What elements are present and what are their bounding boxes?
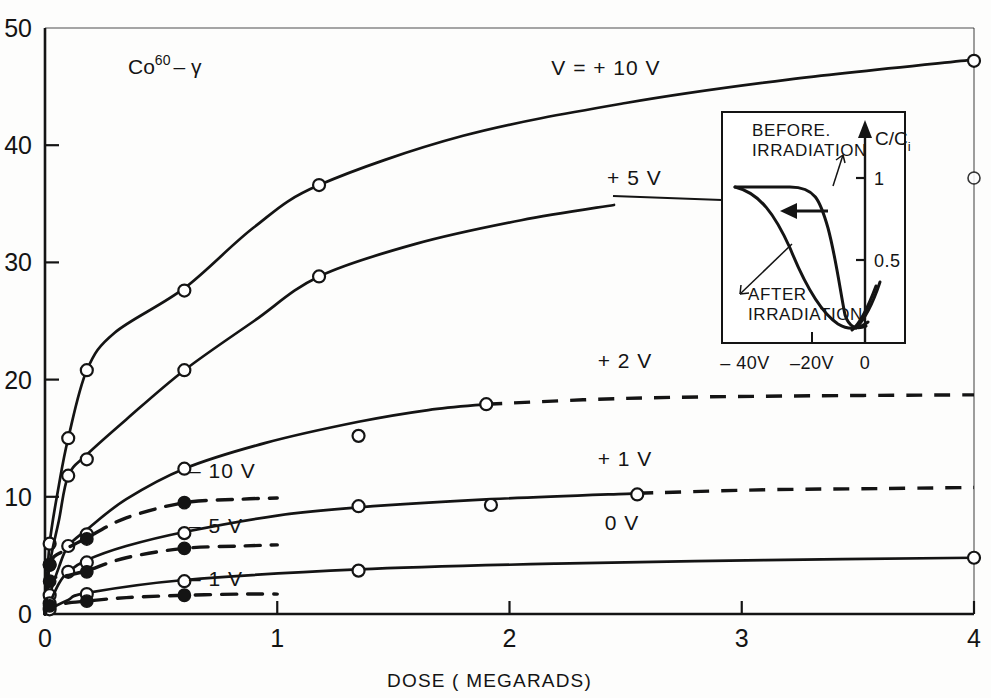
- data-point-open: [353, 565, 365, 577]
- x-tick-label: 2: [503, 624, 517, 652]
- data-point-filled: [81, 566, 93, 578]
- x-axis-title: DOSE ( MEGARADS): [387, 670, 592, 691]
- curve-line-dashed: [637, 487, 974, 493]
- data-point-open: [631, 488, 643, 500]
- data-point-filled: [81, 533, 93, 545]
- inset-y-tick-label: 1: [874, 169, 885, 189]
- data-point-filled: [178, 589, 190, 601]
- curve-label-0V: 0 V: [605, 511, 640, 534]
- x-tick-label: 4: [967, 624, 981, 652]
- data-point-open: [353, 500, 365, 512]
- curve-line: [45, 404, 486, 614]
- inset-after-label-line1: AFTER: [748, 285, 807, 304]
- curve-line-dashed: [486, 395, 974, 404]
- series-5V: + 5 V: [44, 166, 662, 614]
- curve-label-2V: + 2 V: [598, 349, 653, 372]
- data-point-filled: [178, 542, 190, 554]
- x-tick-label: 0: [38, 624, 52, 652]
- y-tick-label: 50: [4, 14, 32, 42]
- x-tick-label: 3: [735, 624, 749, 652]
- y-tick-label: 40: [4, 131, 32, 159]
- data-point-filled: [43, 559, 55, 571]
- curve-line: [45, 205, 614, 614]
- data-point-filled: [43, 575, 55, 587]
- curve-line: [45, 493, 637, 614]
- data-point-open: [62, 432, 74, 444]
- y-tick-label: 30: [4, 248, 32, 276]
- data-point-open: [485, 499, 497, 511]
- data-point-open: [480, 398, 492, 410]
- figure-root: 0102030405001234DOSE ( MEGARADS)Co60– γV…: [0, 0, 991, 698]
- data-point-open: [62, 470, 74, 482]
- curve-label-5V: – 5 V: [189, 514, 243, 537]
- inset-connector-line: [613, 196, 722, 200]
- data-point-open: [313, 179, 325, 191]
- curve-label-5V: + 5 V: [607, 166, 662, 189]
- data-point-open: [178, 364, 190, 376]
- data-point-open: [81, 364, 93, 376]
- y-tick-label: 10: [4, 483, 32, 511]
- inset-y-tick-label: 0.5: [874, 251, 901, 271]
- inset-before-label-line1: BEFORE.: [752, 121, 831, 140]
- data-point-open: [81, 453, 93, 465]
- data-point-open: [968, 172, 980, 184]
- inset-after-label-line2: IRRADIATION: [748, 305, 863, 324]
- curve-label-10V: – 10 V: [189, 459, 256, 482]
- chart-canvas: 0102030405001234DOSE ( MEGARADS)Co60– γV…: [0, 0, 991, 698]
- data-point-open: [178, 285, 190, 297]
- inset-x-tick-label: –20V: [790, 353, 834, 373]
- curve-label-1V: – 1 V: [189, 567, 243, 590]
- y-tick-label: 0: [18, 600, 32, 628]
- inset-x-tick-label: 0: [860, 353, 871, 373]
- data-point-open: [968, 55, 980, 67]
- data-point-filled: [43, 600, 55, 612]
- data-point-open: [353, 430, 365, 442]
- data-point-open: [313, 270, 325, 282]
- data-point-filled: [178, 496, 190, 508]
- y-tick-label: 20: [4, 366, 32, 394]
- inset-before-label-line2: IRRADIATION: [752, 141, 867, 160]
- curve-label-1V: + 1 V: [598, 447, 653, 470]
- source-annotation: Co60– γ: [128, 52, 202, 78]
- inset-x-tick-label: – 40V: [720, 353, 770, 373]
- data-point-open: [968, 552, 980, 564]
- data-point-filled: [81, 595, 93, 607]
- curve-line: [45, 594, 277, 614]
- x-tick-label: 1: [270, 624, 284, 652]
- inset-panel: 10.5C/Ci– 40V–20V0BEFORE.IRRADIATIONAFTE…: [613, 112, 911, 373]
- source-label: Co60– γ: [128, 52, 202, 78]
- curve-label-V10V: V = + 10 V: [551, 56, 660, 79]
